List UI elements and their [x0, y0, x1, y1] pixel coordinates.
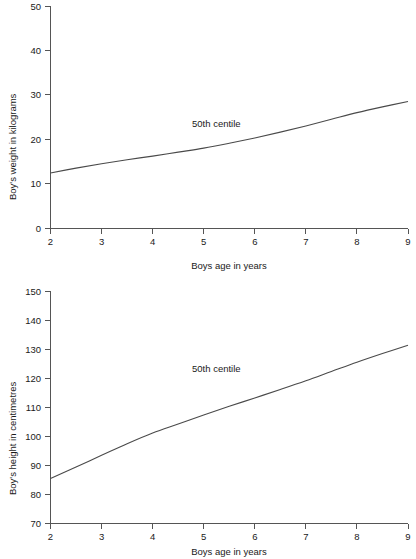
height-x-ticklabel-4: 4: [150, 531, 155, 542]
height-x-ticklabel-2: 2: [48, 531, 53, 542]
weight-y-ticklabel-50: 50: [30, 1, 41, 12]
weight-x-axis-title: Boys age in years: [191, 260, 267, 271]
weight-y-axis-title: Boy's weight in kilograms: [7, 93, 18, 200]
weight-y-ticklabel-40: 40: [30, 45, 41, 56]
height-y-ticklabel-110: 110: [26, 402, 41, 413]
weight-x-ticklabel-9: 9: [405, 236, 410, 247]
weight-y-ticklabel-30: 30: [30, 89, 41, 100]
weight-x-ticklabel-2: 2: [48, 236, 53, 247]
weight-y-ticks: 0 10 20 30 40 50: [30, 1, 50, 234]
height-y-ticklabel-70: 70: [30, 518, 41, 529]
height-x-ticklabel-7: 7: [303, 531, 308, 542]
weight-x-ticks: 2 3 4 5 6 7 8 9: [48, 229, 411, 248]
height-y-ticklabel-80: 80: [30, 489, 41, 500]
height-x-axis-title: Boys age in years: [191, 546, 267, 557]
weight-centile-annotation: 50th centile: [192, 118, 241, 129]
height-y-ticklabel-120: 120: [25, 373, 41, 384]
height-y-ticklabel-100: 100: [25, 431, 41, 442]
height-x-ticklabel-3: 3: [99, 531, 104, 542]
weight-x-ticklabel-5: 5: [201, 236, 206, 247]
weight-chart-canvas: 0 10 20 30 40 50 2 3 4 5 6 7: [0, 0, 416, 280]
height-x-ticklabel-6: 6: [252, 531, 257, 542]
weight-y-ticklabel-0: 0: [36, 223, 41, 234]
height-x-ticks: 2 3 4 5 6 7 8 9: [48, 524, 411, 543]
height-y-ticks: 70 80 90 100 110 120 130 140 150: [25, 286, 50, 529]
boys-height-chart: 70 80 90 100 110 120 130 140 150 2 3: [0, 280, 416, 559]
weight-y-ticklabel-20: 20: [30, 134, 41, 145]
height-centile-annotation: 50th centile: [192, 363, 241, 374]
height-y-ticklabel-140: 140: [25, 315, 41, 326]
height-x-ticklabel-9: 9: [405, 531, 410, 542]
height-y-axis-title: Boy's height in centimetres: [7, 382, 18, 495]
weight-x-ticklabel-6: 6: [252, 236, 257, 247]
boys-weight-chart: 0 10 20 30 40 50 2 3 4 5 6 7: [0, 0, 416, 280]
weight-y-ticklabel-10: 10: [30, 178, 41, 189]
weight-x-ticklabel-7: 7: [303, 236, 308, 247]
weight-x-ticklabel-4: 4: [150, 236, 155, 247]
height-chart-canvas: 70 80 90 100 110 120 130 140 150 2 3: [0, 280, 416, 559]
height-y-ticklabel-150: 150: [25, 286, 41, 297]
height-x-ticklabel-8: 8: [354, 531, 359, 542]
height-y-ticklabel-130: 130: [25, 344, 41, 355]
weight-x-ticklabel-3: 3: [99, 236, 104, 247]
height-x-ticklabel-5: 5: [201, 531, 206, 542]
height-y-ticklabel-90: 90: [30, 460, 41, 471]
weight-centile-curve-path: [51, 102, 409, 173]
weight-x-ticklabel-8: 8: [354, 236, 359, 247]
